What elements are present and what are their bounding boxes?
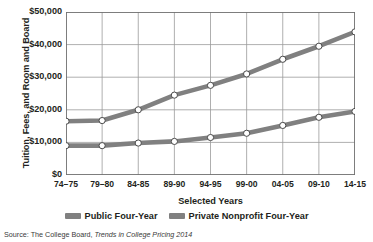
y-axis-tick-label: $40,000	[8, 39, 62, 49]
data-point-marker	[280, 122, 286, 128]
legend-swatch	[169, 213, 185, 219]
x-axis-title: Selected Years	[66, 196, 355, 206]
y-axis-tick-label: $20,000	[8, 104, 62, 114]
data-point-marker	[99, 143, 105, 149]
data-point-marker	[207, 82, 213, 88]
data-point-marker	[316, 114, 322, 120]
data-point-marker	[352, 29, 355, 35]
data-point-marker	[244, 71, 250, 77]
y-axis-tick-label: $10,000	[8, 136, 62, 146]
source-note: Source: The College Board, Trends in Col…	[4, 230, 192, 239]
data-point-marker	[135, 107, 141, 113]
data-point-marker	[171, 92, 177, 98]
y-axis-tick-labels: $0$10,000$20,000$30,000$40,000$50,000	[4, 0, 62, 242]
data-point-marker	[66, 118, 69, 124]
data-point-marker	[135, 140, 141, 146]
plot-area	[66, 12, 355, 175]
data-point-marker	[244, 130, 250, 136]
x-axis-tick-labels: 74–7579–8084-8589-9094-9599-0004-0509-10…	[66, 179, 355, 193]
chart-legend: Public Four-YearPrivate Nonprofit Four-Y…	[0, 211, 373, 221]
data-point-marker	[66, 143, 69, 149]
y-axis-tick-label: $0	[8, 169, 62, 179]
y-axis-tick-label: $50,000	[8, 6, 62, 16]
chart-figure: Tuition, Fees, and Room and Board $0$10,…	[0, 0, 373, 242]
legend-item: Private Nonprofit Four-Year	[169, 211, 309, 221]
source-title: Trends in College Pricing 2014	[95, 230, 193, 239]
data-point-marker	[280, 56, 286, 62]
source-prefix: Source: The College Board,	[4, 230, 95, 239]
data-point-marker	[171, 138, 177, 144]
data-point-marker	[207, 134, 213, 140]
legend-label: Private Nonprofit Four-Year	[189, 211, 309, 221]
y-axis-tick-label: $30,000	[8, 71, 62, 81]
data-point-marker	[99, 117, 105, 123]
data-point-marker	[352, 108, 355, 114]
x-axis-tick-label: 14-15	[330, 179, 373, 189]
chart-canvas	[66, 12, 355, 175]
legend-label: Public Four-Year	[85, 211, 158, 221]
data-point-marker	[316, 43, 322, 49]
legend-swatch	[65, 213, 81, 219]
legend-item: Public Four-Year	[65, 211, 158, 221]
